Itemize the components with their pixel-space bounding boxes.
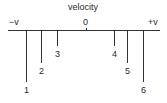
marker-line-4: [114, 30, 115, 46]
neg-v-label: −v: [9, 17, 19, 27]
marker-line-6: [143, 30, 144, 82]
marker-label-3: 3: [55, 49, 60, 59]
marker-label-5: 5: [125, 66, 130, 76]
marker-label-1: 1: [24, 85, 29, 95]
marker-line-1: [26, 30, 27, 82]
title-label: velocity: [68, 2, 98, 12]
zero-tick: [86, 28, 87, 31]
marker-label-4: 4: [112, 49, 117, 59]
marker-line-2: [41, 30, 42, 63]
pos-v-label: +v: [148, 17, 158, 27]
marker-label-2: 2: [39, 66, 44, 76]
marker-line-3: [57, 30, 58, 46]
zero-label: 0: [83, 17, 88, 27]
velocity-axis: [8, 30, 160, 31]
marker-label-6: 6: [141, 85, 146, 95]
marker-line-5: [127, 30, 128, 63]
